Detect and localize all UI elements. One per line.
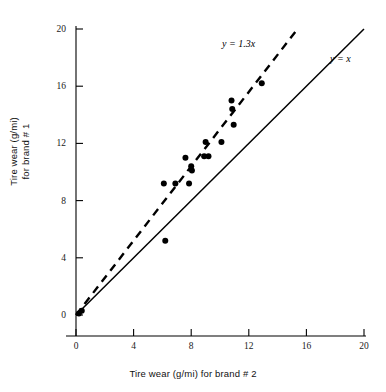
regression-line	[76, 29, 298, 315]
solid-line-label: y = x	[330, 53, 351, 64]
x-tick-label: 8	[189, 341, 194, 351]
x-tick-label: 12	[244, 341, 254, 351]
y-axis-title: Tire wear (g/mi) for brand # 1	[8, 87, 31, 217]
data-points	[76, 80, 265, 316]
data-point	[189, 168, 195, 174]
x-tick-label: 0	[74, 341, 79, 351]
x-tick-label: 20	[359, 341, 369, 351]
data-point	[218, 139, 224, 145]
data-point	[203, 139, 209, 145]
x-tick-label: 4	[131, 341, 136, 351]
y-tick-label: 20	[38, 24, 66, 34]
data-point	[79, 308, 85, 314]
x-axis-ticks	[76, 329, 364, 336]
data-point	[259, 80, 265, 86]
y-tick-label: 16	[38, 81, 66, 91]
data-point	[161, 180, 167, 186]
data-point	[231, 122, 237, 128]
y-tick-label: 8	[38, 196, 66, 206]
dashed-line-label: y = 1.3x	[222, 38, 255, 49]
y-tick-label: 4	[38, 253, 66, 263]
data-point	[162, 238, 168, 244]
x-tick-label: 16	[302, 341, 312, 351]
y-tick-label: 0	[38, 310, 66, 320]
data-point	[172, 180, 178, 186]
identity-line	[76, 29, 364, 315]
x-axis-title: Tire wear (g/mi) for brand # 2	[0, 368, 386, 379]
y-axis-ticks	[76, 29, 83, 315]
y-axis-title-line-1: Tire wear (g/mi)	[8, 87, 20, 217]
y-axis-title-line-2: for brand # 1	[19, 87, 31, 217]
data-point	[229, 106, 235, 112]
data-point	[205, 153, 211, 159]
y-tick-label: 12	[38, 138, 66, 148]
data-point	[186, 180, 192, 186]
reference-lines	[76, 29, 364, 315]
data-point	[182, 155, 188, 161]
data-point	[229, 98, 235, 104]
scatter-plot-figure: 048121620048121620 Tire wear (g/mi) for …	[0, 0, 386, 392]
